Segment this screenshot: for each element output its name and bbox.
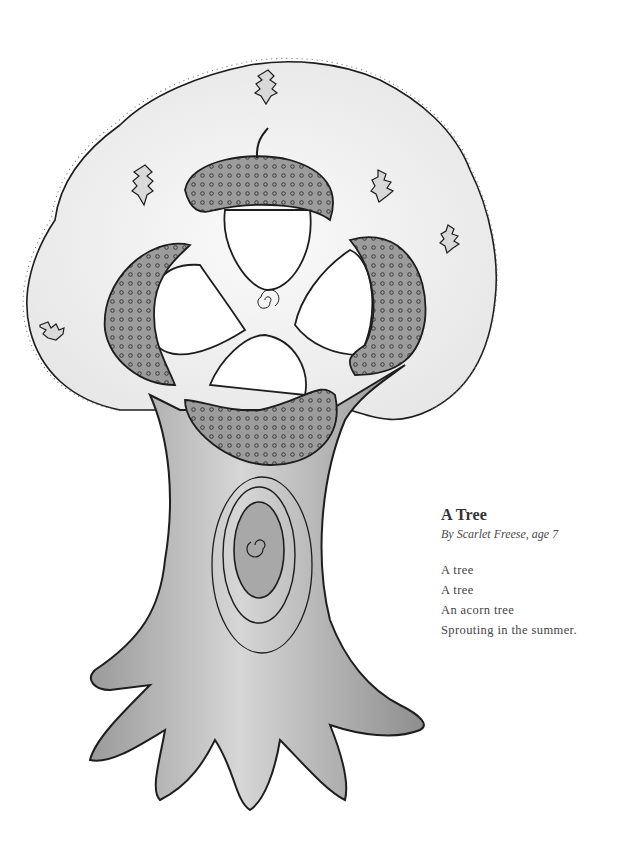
poem-lines: A tree A tree An acorn tree Sprouting in…: [441, 560, 577, 640]
tree-illustration: [0, 0, 617, 859]
poem-title: A Tree: [441, 505, 577, 525]
poem-line: An acorn tree: [441, 600, 577, 620]
poem-line: A tree: [441, 560, 577, 580]
poem-line: A tree: [441, 580, 577, 600]
poem-line: Sprouting in the summer.: [441, 620, 577, 640]
poem-byline: By Scarlet Freese, age 7: [441, 526, 577, 542]
poem-block: A Tree By Scarlet Freese, age 7 A tree A…: [441, 505, 577, 640]
